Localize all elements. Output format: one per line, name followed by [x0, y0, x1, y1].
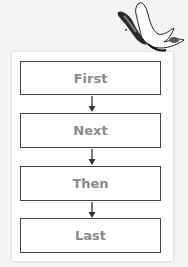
step-label: Then: [72, 176, 108, 191]
step-box-last: Last: [20, 218, 161, 253]
step-label: Last: [75, 228, 106, 243]
flowchart-card: First Next Then Last: [12, 52, 173, 261]
step-box-then: Then: [20, 166, 161, 201]
down-arrow-icon: [88, 148, 96, 166]
down-arrow-icon: [88, 201, 96, 219]
down-arrow-icon: [88, 95, 96, 113]
step-label: First: [74, 71, 108, 86]
step-box-next: Next: [20, 113, 161, 148]
step-box-first: First: [20, 61, 161, 95]
step-label: Next: [73, 123, 107, 138]
butterfly-icon: [108, 0, 188, 56]
